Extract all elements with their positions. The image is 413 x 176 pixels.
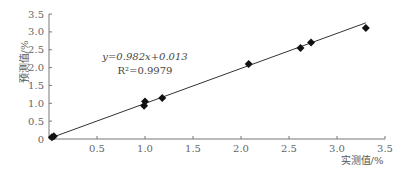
x-tick-label: 1.5 [185, 143, 201, 154]
x-tick-label: 3.0 [329, 143, 345, 154]
x-tick-label: 0.5 [89, 143, 105, 154]
x-tick-label: 2.5 [281, 143, 297, 154]
r-squared: R²=0.9979 [118, 65, 173, 76]
y-tick-label: 3.5 [28, 9, 44, 20]
trendline [49, 23, 366, 139]
x-tick-label: 2.0 [233, 143, 249, 154]
y-axis-title: 预测值/% [18, 41, 30, 84]
x-axis-title: 实测值/% [341, 154, 384, 166]
x-tick-label: 3.5 [377, 143, 393, 154]
y-tick-label: 3.0 [28, 26, 44, 37]
trendline-path [49, 23, 366, 139]
y-tick-label: 2.0 [28, 62, 44, 73]
scatter-chart: 00.51.01.52.02.53.03.5 0.51.01.52.02.53.… [0, 0, 413, 176]
y-tick-label: 2.5 [28, 44, 44, 55]
y-tick-label: 0.5 [28, 116, 44, 127]
y-tick-label: 1.0 [28, 98, 44, 109]
regression-equation: y=0.982x+0.013 [101, 51, 187, 62]
diamond-marker [307, 39, 315, 47]
y-ticks: 00.51.01.52.02.53.03.5 [28, 9, 52, 145]
y-tick-label: 0 [38, 134, 44, 145]
diamond-marker [362, 24, 370, 32]
data-points [48, 24, 370, 141]
y-tick-label: 1.5 [28, 80, 44, 91]
diamond-marker [158, 94, 166, 102]
x-tick-label: 1.0 [137, 143, 153, 154]
